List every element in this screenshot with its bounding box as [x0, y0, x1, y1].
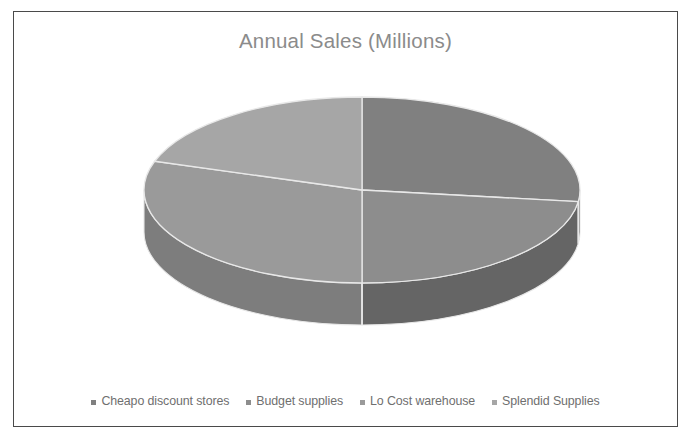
legend-item[interactable]: Lo Cost warehouse — [360, 394, 475, 408]
legend-swatch-icon — [246, 400, 251, 405]
pie-chart-plot-area — [14, 68, 677, 368]
legend-swatch-icon — [492, 400, 497, 405]
pie-slices-group — [144, 97, 580, 325]
pie-chart-svg — [14, 68, 677, 368]
pie-slice-top-0 — [362, 97, 580, 202]
chart-frame: Annual Sales (Millions) Cheapo discount … — [13, 11, 678, 427]
legend-swatch-icon — [91, 400, 96, 405]
legend-item-label: Cheapo discount stores — [101, 394, 229, 408]
legend-item[interactable]: Budget supplies — [246, 394, 343, 408]
legend-item[interactable]: Cheapo discount stores — [91, 394, 229, 408]
legend-item-label: Lo Cost warehouse — [370, 394, 475, 408]
chart-legend: Cheapo discount storesBudget suppliesLo … — [14, 394, 677, 408]
legend-item-label: Splendid Supplies — [502, 394, 600, 408]
legend-swatch-icon — [360, 400, 365, 405]
legend-item-label: Budget supplies — [256, 394, 343, 408]
legend-item[interactable]: Splendid Supplies — [492, 394, 600, 408]
chart-title: Annual Sales (Millions) — [14, 29, 677, 53]
